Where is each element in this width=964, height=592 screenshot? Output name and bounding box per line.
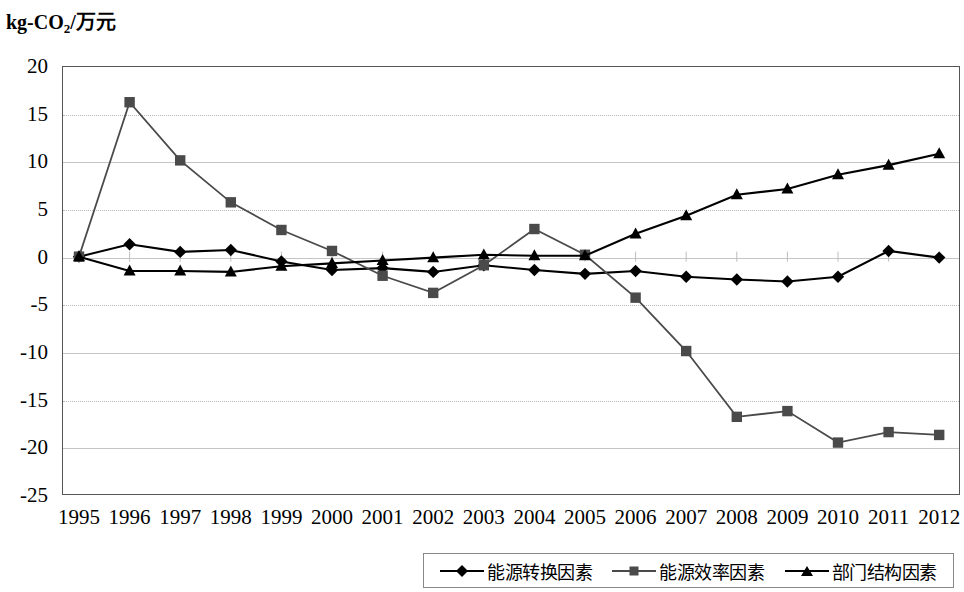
legend-item-2[interactable]: 部门结构因素	[785, 558, 937, 584]
data-point-marker	[680, 270, 692, 282]
legend-marker-square-icon	[612, 563, 656, 579]
x-tick-label: 1996	[109, 505, 151, 530]
x-tick-label: 2001	[362, 505, 404, 530]
x-tick-label: 2004	[513, 505, 555, 530]
data-point-marker	[479, 260, 489, 270]
data-point-marker	[579, 268, 591, 280]
data-point-marker	[933, 147, 945, 158]
data-point-marker	[681, 346, 691, 356]
data-point-marker	[174, 246, 186, 258]
x-tick-label: 1999	[260, 505, 302, 530]
data-point-marker	[226, 197, 236, 207]
data-point-marker	[377, 271, 387, 281]
x-tick-label: 2011	[868, 505, 909, 530]
x-axis-tick-labels: 1995199619971998199920002001200220032004…	[0, 505, 964, 537]
data-point-marker	[933, 251, 945, 263]
x-tick-label: 2010	[817, 505, 859, 530]
legend-marker-triangle-icon	[785, 563, 829, 579]
chart-legend: 能源转换因素 能源效率因素 部门结构因素	[423, 553, 954, 588]
data-point-marker	[428, 288, 438, 298]
data-point-marker	[630, 292, 640, 302]
data-point-marker	[427, 266, 439, 278]
data-point-marker	[934, 430, 944, 440]
data-point-marker	[175, 155, 185, 165]
legend-marker-diamond-icon	[440, 563, 484, 579]
data-point-marker	[731, 273, 743, 285]
data-series-layer	[0, 0, 964, 592]
data-point-marker	[833, 437, 843, 447]
series-1	[73, 238, 946, 288]
legend-item-1[interactable]: 能源效率因素	[612, 558, 764, 584]
x-tick-label: 2007	[665, 505, 707, 530]
data-point-marker	[882, 245, 894, 257]
data-point-marker	[528, 264, 540, 276]
series-3	[73, 147, 945, 276]
chart-container: kg-CO2/万元 20151050-5-10-15-20-25 1995199…	[0, 0, 964, 592]
data-point-marker	[529, 224, 539, 234]
legend-label-2: 部门结构因素	[832, 558, 937, 584]
x-tick-label: 2002	[412, 505, 454, 530]
x-tick-label: 2012	[918, 505, 960, 530]
x-tick-label: 1997	[159, 505, 201, 530]
data-point-marker	[124, 97, 134, 107]
data-point-marker	[276, 225, 286, 235]
legend-label-1: 能源效率因素	[659, 558, 764, 584]
x-tick-label: 1995	[58, 505, 100, 530]
data-point-marker	[629, 265, 641, 277]
x-tick-label: 2005	[564, 505, 606, 530]
x-tick-label: 2009	[766, 505, 808, 530]
data-point-marker	[883, 427, 893, 437]
data-point-marker	[782, 406, 792, 416]
data-point-marker	[327, 246, 337, 256]
data-point-marker	[732, 412, 742, 422]
legend-label-0: 能源转换因素	[487, 558, 592, 584]
x-tick-label: 2000	[311, 505, 353, 530]
x-tick-label: 2006	[615, 505, 657, 530]
series-line	[79, 244, 939, 281]
data-point-marker	[225, 244, 237, 256]
x-tick-label: 2008	[716, 505, 758, 530]
data-point-marker	[123, 238, 135, 250]
legend-item-0[interactable]: 能源转换因素	[440, 558, 592, 584]
x-tick-label: 1998	[210, 505, 252, 530]
x-tick-label: 2003	[463, 505, 505, 530]
data-point-marker	[781, 275, 793, 287]
data-point-marker	[832, 270, 844, 282]
series-line	[79, 154, 939, 272]
